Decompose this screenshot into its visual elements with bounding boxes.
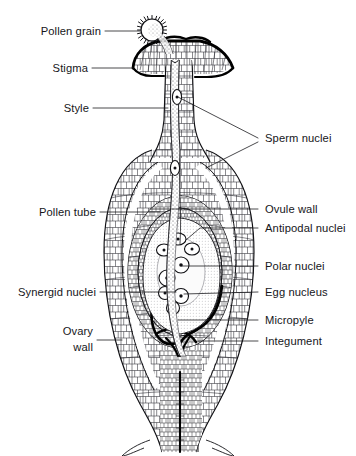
label-egg-nucleus: Egg nucleus — [265, 286, 328, 298]
label-micropyle: Micropyle — [265, 314, 314, 326]
embryo-sac — [143, 218, 220, 334]
label-ovule-wall: Ovule wall — [265, 203, 318, 215]
label-stigma: Stigma — [53, 62, 89, 74]
label-polar-nuclei: Polar nuclei — [265, 260, 325, 272]
label-pollen-tube: Pollen tube — [39, 206, 96, 218]
botanical-diagram-figure: Pollen grain Stigma Style Pollen tube Sy… — [0, 0, 356, 456]
label-antipodal-nuclei: Antipodal nuclei — [265, 222, 346, 234]
label-sperm-nuclei: Sperm nuclei — [265, 132, 332, 144]
label-style: Style — [64, 102, 89, 114]
label-integument: Integument — [265, 335, 323, 347]
label-ovary-wall-line2: wall — [72, 341, 93, 353]
label-synergid-nuclei: Synergid nuclei — [18, 286, 96, 298]
label-ovary-wall-line1: Ovary — [63, 325, 94, 337]
pistil-fertilization-illustration: Pollen grain Stigma Style Pollen tube Sy… — [0, 0, 356, 456]
label-pollen-grain: Pollen grain — [41, 25, 101, 37]
